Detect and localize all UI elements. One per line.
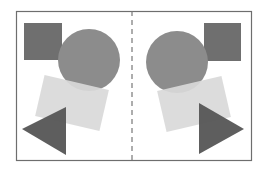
mirror-diagram (0, 0, 262, 174)
right-square (204, 23, 241, 61)
left-square (24, 23, 62, 60)
